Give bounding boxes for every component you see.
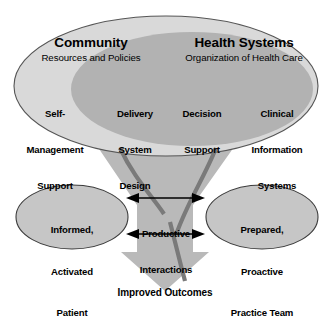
health-systems-ellipse	[71, 32, 313, 146]
prepared-proactive-practice-team-oval	[206, 185, 318, 249]
interaction-arrow-lower-head-left	[126, 229, 139, 239]
informed-activated-patient-oval	[16, 185, 128, 249]
oval-line: Patient	[24, 306, 120, 320]
oval-line: Practice Team	[212, 306, 312, 320]
interaction-arrow-lower-head-right	[192, 229, 205, 239]
